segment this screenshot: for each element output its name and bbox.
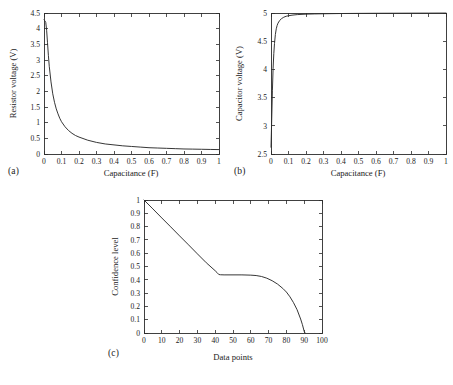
x-tick-label: 0.9 <box>424 157 434 166</box>
x-tick-label: 40 <box>211 336 219 345</box>
chart-panel-a: 0 0.1 0.2 0.3 0.4 0.5 0.6 0.7 0.8 0.9 1 … <box>0 0 226 178</box>
plot-area-a: 0 0.1 0.2 0.3 0.4 0.5 0.6 0.7 0.8 0.9 1 … <box>8 9 221 178</box>
x-tick-label: 30 <box>194 336 202 345</box>
y-tick-label: 1 <box>36 118 40 127</box>
x-tick-label: 0 <box>142 336 146 345</box>
y-tick-label: 0.5 <box>31 134 41 143</box>
panel-tag-b: (b) <box>234 166 246 176</box>
y-tick-label: 3.5 <box>258 93 268 102</box>
x-tick-label: 50 <box>229 336 237 345</box>
y-axis-title-b: Capacitor voltage (V) <box>234 46 244 121</box>
x-tick-label: 0.7 <box>389 157 399 166</box>
plot-background-c <box>144 200 322 333</box>
panel-tag-c: (c) <box>108 348 119 358</box>
x-tick-label: 0.9 <box>197 157 207 166</box>
y-tick-label: 0.6 <box>131 249 141 258</box>
y-tick-label: 1 <box>136 196 140 205</box>
y-tick-label: 5 <box>263 9 267 18</box>
panel-tag-a: (a) <box>8 166 19 176</box>
x-tick-label: 0.7 <box>162 157 172 166</box>
x-tick-label: 0.4 <box>109 157 119 166</box>
x-tick-label: 90 <box>300 336 308 345</box>
y-tick-label: 1.5 <box>31 103 41 112</box>
y-tick-labels-b: 2.5 3 3.5 4 4.5 5 <box>258 9 268 159</box>
y-tick-label: 0 <box>136 329 140 338</box>
y-tick-label: 4.5 <box>31 9 41 18</box>
x-tick-label: 0.5 <box>127 157 137 166</box>
y-tick-label: 0.3 <box>131 289 141 298</box>
x-tick-label: 0.6 <box>144 157 154 166</box>
x-tick-label: 0.6 <box>371 157 381 166</box>
x-tick-label: 0.8 <box>179 157 189 166</box>
y-tick-label: 2 <box>36 87 40 96</box>
x-tick-label: 100 <box>316 336 328 345</box>
x-tick-label: 0.3 <box>319 157 329 166</box>
x-tick-label: 0.2 <box>74 157 84 166</box>
x-tick-label: 60 <box>247 336 255 345</box>
x-tick-label: 0.1 <box>57 157 67 166</box>
x-tick-label: 0.1 <box>284 157 294 166</box>
chart-panel-b: 0 0.1 0.2 0.3 0.4 0.5 0.6 0.7 0.8 0.9 1 … <box>226 0 453 178</box>
y-tick-label: 2.5 <box>258 150 268 159</box>
x-tick-labels-b: 0 0.1 0.2 0.3 0.4 0.5 0.6 0.7 0.8 0.9 1 <box>269 157 448 166</box>
y-tick-label: 0.7 <box>131 236 141 245</box>
x-tick-label: 0.8 <box>406 157 416 166</box>
plot-background-b <box>271 13 446 154</box>
figure-panel-group: 0 0.1 0.2 0.3 0.4 0.5 0.6 0.7 0.8 0.9 1 … <box>0 0 453 385</box>
x-tick-label: 0.3 <box>92 157 102 166</box>
x-tick-label: 0.5 <box>354 157 364 166</box>
plot-area-b: 0 0.1 0.2 0.3 0.4 0.5 0.6 0.7 0.8 0.9 1 … <box>234 9 448 178</box>
x-axis-title-a: Capacitance (F) <box>104 168 159 178</box>
x-axis-title-b: Capacitance (F) <box>331 168 386 178</box>
x-tick-labels-c: 0 10 20 30 40 50 60 70 80 90 100 <box>142 336 328 345</box>
chart-svg-a: 0 0.1 0.2 0.3 0.4 0.5 0.6 0.7 0.8 0.9 1 … <box>0 0 226 178</box>
x-tick-label: 1 <box>444 157 448 166</box>
chart-panel-c: 0 10 20 30 40 50 60 70 80 90 100 0 0.1 0… <box>105 190 370 385</box>
x-tick-labels-a: 0 0.1 0.2 0.3 0.4 0.5 0.6 0.7 0.8 0.9 1 <box>42 157 221 166</box>
y-tick-label: 0.1 <box>131 315 141 324</box>
x-tick-label: 20 <box>176 336 184 345</box>
x-tick-label: 80 <box>283 336 291 345</box>
y-tick-labels-c: 0 0.1 0.2 0.3 0.4 0.5 0.6 0.7 0.8 0.9 1 <box>131 196 141 338</box>
x-tick-label: 1 <box>217 157 221 166</box>
y-tick-label: 0.8 <box>131 222 141 231</box>
y-tick-label: 0 <box>36 150 40 159</box>
x-tick-label: 10 <box>158 336 166 345</box>
x-tick-label: 0 <box>269 157 273 166</box>
y-tick-label: 0.2 <box>131 302 141 311</box>
chart-svg-c: 0 10 20 30 40 50 60 70 80 90 100 0 0.1 0… <box>105 190 370 385</box>
y-tick-label: 3 <box>263 122 267 131</box>
y-tick-label: 2.5 <box>31 71 41 80</box>
x-tick-label: 0.4 <box>336 157 346 166</box>
chart-svg-b: 0 0.1 0.2 0.3 0.4 0.5 0.6 0.7 0.8 0.9 1 … <box>226 0 453 178</box>
x-tick-label: 70 <box>265 336 273 345</box>
y-tick-label: 3.5 <box>31 40 41 49</box>
y-tick-labels-a: 0 0.5 1 1.5 2 2.5 3 3.5 4 4.5 <box>31 9 41 159</box>
y-tick-label: 0.5 <box>131 262 141 271</box>
y-tick-label: 4 <box>36 24 40 33</box>
plot-area-c: 0 10 20 30 40 50 60 70 80 90 100 0 0.1 0… <box>110 196 328 362</box>
y-tick-label: 3 <box>36 56 40 65</box>
y-tick-label: 0.4 <box>131 276 141 285</box>
y-tick-label: 4 <box>263 65 267 74</box>
plot-background-a <box>44 13 219 154</box>
x-tick-label: 0 <box>42 157 46 166</box>
y-tick-label: 4.5 <box>258 37 268 46</box>
x-axis-title-c: Data points <box>213 352 253 362</box>
x-tick-label: 0.2 <box>301 157 311 166</box>
y-axis-title-c: Confidence level <box>110 237 120 296</box>
y-tick-label: 0.9 <box>131 209 141 218</box>
y-axis-title-a: Resistor voltage (V) <box>8 49 18 119</box>
